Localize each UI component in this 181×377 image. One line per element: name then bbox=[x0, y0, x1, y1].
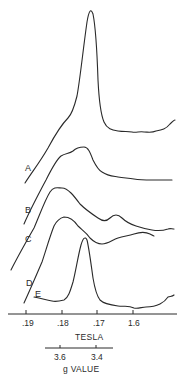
trace-d bbox=[24, 217, 154, 303]
tick-label: .17 bbox=[93, 318, 105, 328]
tick-label: .19 bbox=[22, 318, 34, 328]
label-d: D bbox=[26, 278, 33, 288]
label-e: E bbox=[35, 289, 41, 299]
trace-b bbox=[24, 147, 172, 224]
label-c: C bbox=[25, 234, 32, 244]
g-tick-label: 3.6 bbox=[54, 352, 66, 362]
g-tick-label: 3.4 bbox=[91, 352, 103, 362]
epr-spectra-chart: A B C D E .19 .18 .17 1.6 TESLA 3.6 3.4 … bbox=[0, 0, 181, 377]
label-b: B bbox=[25, 205, 31, 215]
label-a: A bbox=[25, 163, 31, 173]
tick-label: .18 bbox=[57, 318, 69, 328]
trace-e bbox=[34, 238, 174, 308]
tick-label: 1.6 bbox=[128, 318, 140, 328]
trace-a bbox=[25, 11, 175, 183]
g-axis-label: g VALUE bbox=[63, 364, 99, 374]
tesla-axis-label: TESLA bbox=[75, 332, 103, 342]
